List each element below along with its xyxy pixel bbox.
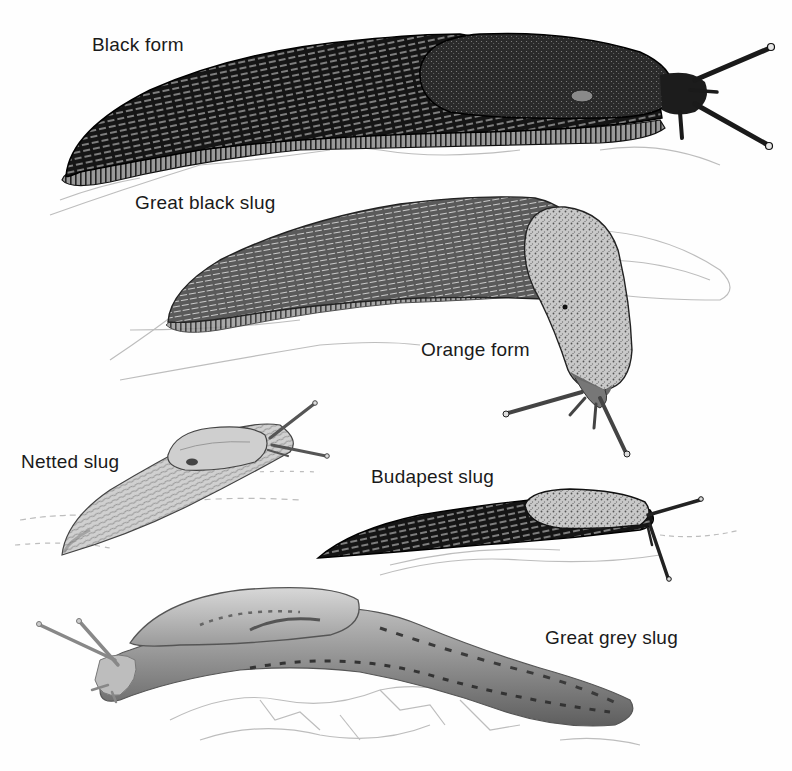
label-great-grey-slug: Great grey slug bbox=[545, 628, 678, 647]
illustration-canvas bbox=[0, 0, 792, 771]
label-great-black-slug: Great black slug bbox=[135, 193, 276, 212]
slug-illustration-plate: Black form Great black slug Orange form … bbox=[0, 0, 792, 771]
label-black-form: Black form bbox=[92, 35, 184, 54]
label-netted-slug: Netted slug bbox=[21, 452, 119, 471]
label-orange-form: Orange form bbox=[421, 340, 530, 359]
great-black-slug-black-form-illustration bbox=[62, 33, 775, 185]
great-black-slug-orange-form-illustration bbox=[166, 197, 632, 457]
netted-slug-illustration bbox=[62, 401, 329, 555]
budapest-slug-illustration bbox=[318, 489, 703, 581]
great-grey-slug-illustration bbox=[37, 588, 633, 726]
label-budapest-slug: Budapest slug bbox=[371, 467, 494, 486]
